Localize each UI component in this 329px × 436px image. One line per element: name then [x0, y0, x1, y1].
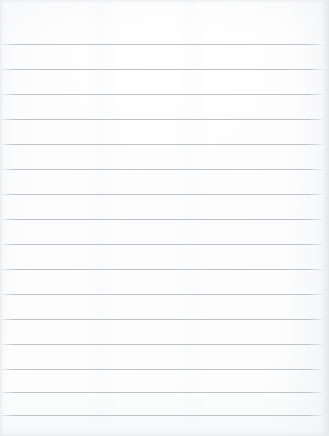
writing-line-row[interactable]	[0, 270, 329, 294]
writing-line-row[interactable]	[0, 120, 329, 144]
lined-paper-page	[0, 0, 329, 436]
writing-line-row[interactable]	[0, 295, 329, 319]
writing-line-row[interactable]	[0, 70, 329, 94]
writing-line-row[interactable]	[0, 320, 329, 344]
writing-line-row[interactable]	[0, 145, 329, 169]
writing-line-row[interactable]	[0, 170, 329, 194]
rule-line-group	[0, 0, 329, 436]
writing-line-row[interactable]	[0, 345, 329, 369]
writing-line-row[interactable]	[0, 195, 329, 219]
writing-line-row[interactable]	[0, 393, 329, 415]
bottom-margin-area	[0, 416, 329, 436]
writing-line-row[interactable]	[0, 245, 329, 269]
writing-line-row[interactable]	[0, 370, 329, 392]
writing-line-row[interactable]	[0, 45, 329, 69]
writing-line-row[interactable]	[0, 95, 329, 119]
writing-line-row[interactable]	[0, 220, 329, 244]
